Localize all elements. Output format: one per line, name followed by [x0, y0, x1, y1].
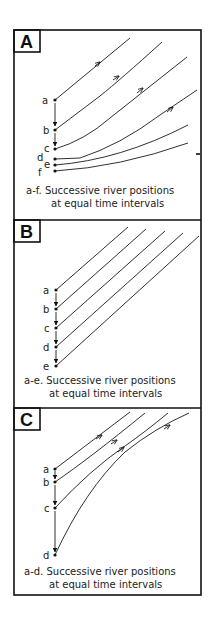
river-line-e: [55, 125, 188, 165]
river-line-c: [55, 413, 168, 508]
river-line-d: [55, 90, 197, 159]
position-point-e: [53, 163, 56, 166]
point-label-a: a: [42, 95, 48, 106]
flow-arrow-icon: [118, 447, 124, 452]
panel-a-caption-line2: at equal time intervals: [51, 198, 164, 209]
panel-c: C a b c d a-d. Successive river position…: [14, 408, 189, 590]
river-line-c: [56, 231, 165, 328]
point-label-b: b: [43, 304, 49, 315]
point-label-d: d: [43, 342, 49, 353]
position-point-d: [53, 157, 56, 160]
position-point-e: [54, 364, 57, 367]
river-line-a: [55, 412, 130, 469]
panel-c-caption-line2: at equal time intervals: [49, 579, 162, 590]
position-point-f: [53, 169, 56, 172]
point-label-c: c: [44, 503, 50, 514]
panel-a-caption-line1: a-f. Successive river positions: [26, 185, 174, 196]
river-line-a: [56, 227, 128, 290]
position-point-a: [54, 288, 57, 291]
river-line-a: [55, 38, 130, 100]
point-label-e: e: [44, 159, 50, 170]
position-point-b: [54, 307, 57, 310]
point-label-a: a: [43, 464, 49, 475]
point-label-b: b: [43, 125, 49, 136]
position-point-a: [53, 467, 56, 470]
position-point-c: [53, 506, 56, 509]
river-migration-diagram: A a b c d e f a-f. Successive river posi: [0, 0, 214, 618]
position-point-c: [53, 147, 56, 150]
point-label-e: e: [43, 361, 49, 372]
point-label-b: b: [43, 477, 49, 488]
point-label-a: a: [43, 285, 49, 296]
panel-a: A a b c d e f a-f. Successive river posi: [14, 30, 200, 209]
panel-b-letter: B: [20, 222, 33, 242]
panel-b-caption-line2: at equal time intervals: [49, 388, 162, 399]
position-point-b: [53, 128, 56, 131]
point-label-c: c: [44, 143, 50, 154]
position-point-c: [54, 326, 57, 329]
panel-a-letter: A: [20, 32, 33, 52]
river-line-d: [55, 413, 189, 555]
flow-arrow-icon: [113, 76, 119, 80]
position-point-b: [53, 480, 56, 483]
flow-arrow-icon: [111, 440, 117, 444]
position-point-d: [54, 345, 57, 348]
river-line-d: [56, 233, 183, 347]
panel-c-caption-line1: a-d. Successive river positions: [24, 566, 176, 577]
position-point-d: [53, 553, 56, 556]
panel-b-caption-line1: a-e. Successive river positions: [24, 375, 176, 386]
point-label-d: d: [43, 550, 49, 561]
point-label-d: d: [37, 152, 43, 163]
position-point-a: [53, 98, 56, 101]
river-line-e: [56, 236, 199, 366]
river-line-f: [55, 143, 188, 171]
point-label-c: c: [44, 323, 50, 334]
panel-c-letter: C: [20, 410, 33, 430]
panel-b: B a b c d e a-e. Successive river positi…: [14, 220, 199, 399]
flow-arrow-icon: [164, 425, 170, 429]
point-label-f: f: [38, 167, 42, 178]
